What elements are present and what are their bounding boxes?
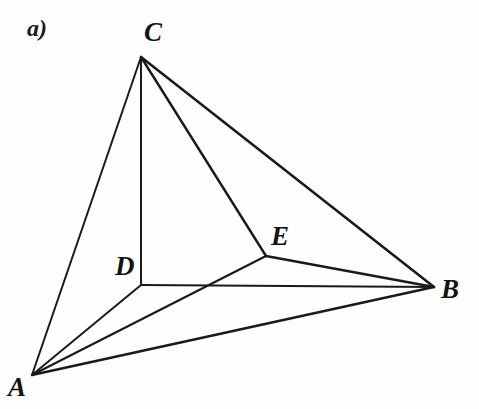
edge-db (141, 285, 434, 287)
edge-ab (32, 287, 434, 375)
part-label-a: a) (27, 16, 47, 40)
vertex-label-b: B (441, 276, 459, 303)
edge-eb (266, 256, 434, 287)
vertex-label-d: D (115, 253, 135, 280)
vertex-label-c: C (144, 19, 162, 46)
edge-ce (141, 57, 266, 256)
edge-cb (141, 57, 434, 287)
diagram-canvas (0, 0, 479, 409)
edge-layer (32, 57, 434, 375)
figure-container: a) C D E B A (0, 0, 479, 409)
vertex-label-e: E (271, 223, 289, 250)
vertex-label-a: A (8, 374, 26, 401)
